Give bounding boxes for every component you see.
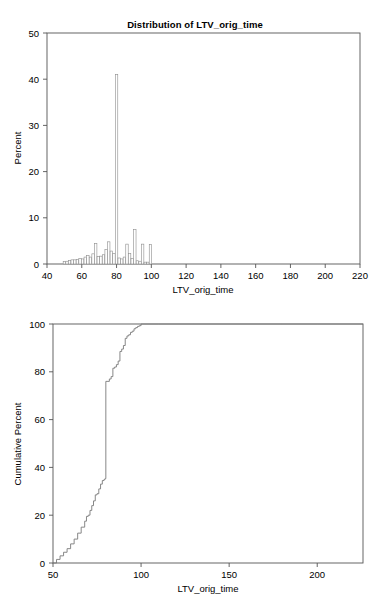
histogram-bar (87, 256, 89, 264)
histogram-bar (128, 253, 130, 264)
histogram-bar (92, 254, 94, 264)
hist-xtick-140: 140 (213, 270, 229, 281)
cdf-ytick-20: 20 (34, 510, 45, 521)
cdf-ytick-40: 40 (34, 462, 45, 473)
cdf-ytick-60: 60 (34, 414, 45, 425)
cdf-x-axis: 50 100 150 200 LTV_orig_time (48, 563, 325, 594)
hist-xtick-220: 220 (352, 270, 368, 281)
histogram-bar (94, 244, 96, 264)
histogram-bar (97, 257, 99, 264)
cdf-xtick-200: 200 (309, 569, 325, 580)
hist-xtick-80: 80 (111, 270, 122, 281)
histogram-bar (100, 256, 102, 264)
hist-ylabel: Percent (12, 131, 23, 164)
histogram-panel: Distribution of LTV_orig_time 0 10 20 30… (0, 0, 390, 300)
histogram-bar (68, 260, 70, 264)
hist-ytick-30: 30 (28, 120, 39, 131)
histogram-bar (66, 261, 68, 264)
histogram-bar (71, 260, 73, 264)
histogram-bar (105, 250, 107, 264)
cdf-curve (53, 324, 363, 563)
histogram-frame (47, 33, 360, 264)
cdf-plot: 0 20 40 60 80 100 Cumulative Percent 50 … (0, 300, 390, 597)
cdf-xtick-50: 50 (48, 569, 59, 580)
hist-xtick-160: 160 (248, 270, 264, 281)
cdf-ytick-0: 0 (40, 558, 45, 569)
cdf-ytick-80: 80 (34, 366, 45, 377)
hist-xtick-180: 180 (283, 270, 299, 281)
histogram-y-axis: 0 10 20 30 40 50 Percent (12, 28, 47, 270)
histogram-bar (121, 259, 123, 264)
hist-xtick-200: 200 (317, 270, 333, 281)
histogram-bar (131, 258, 133, 264)
histogram-bar (102, 255, 104, 264)
histogram-bar (136, 261, 138, 264)
cdf-xlabel: LTV_orig_time (177, 583, 238, 594)
histogram-bar (126, 244, 128, 264)
cdf-xtick-150: 150 (221, 569, 237, 580)
cdf-ytick-100: 100 (29, 319, 45, 330)
hist-xlabel: LTV_orig_time (172, 284, 233, 295)
hist-xtick-40: 40 (42, 270, 53, 281)
histogram-bar (139, 261, 141, 264)
histogram-bar (141, 244, 143, 264)
histogram-plot: 0 10 20 30 40 50 Percent 40 (0, 0, 390, 300)
hist-ytick-10: 10 (28, 212, 39, 223)
histogram-bar (113, 253, 115, 264)
hist-ytick-0: 0 (34, 259, 39, 270)
histogram-bar (144, 262, 146, 264)
cdf-ylabel: Cumulative Percent (12, 402, 23, 485)
histogram-bar (134, 229, 136, 264)
figure-page: Distribution of LTV_orig_time 0 10 20 30… (0, 0, 390, 597)
histogram-bar (147, 262, 149, 264)
histogram-bar (84, 257, 86, 264)
histogram-bar (149, 245, 151, 264)
hist-ytick-50: 50 (28, 28, 39, 39)
histogram-bar (79, 258, 81, 264)
cdf-frame (53, 324, 363, 563)
histogram-bar (74, 260, 76, 264)
hist-xtick-100: 100 (143, 270, 159, 281)
histogram-x-axis: 40 60 80 100 120 140 160 180 200 220 LTV… (42, 264, 368, 295)
histogram-bar (108, 242, 110, 264)
histogram-bar (81, 259, 83, 264)
histogram-bar (115, 75, 117, 264)
cdf-y-axis: 0 20 40 60 80 100 Cumulative Percent (12, 319, 53, 569)
hist-xtick-120: 120 (178, 270, 194, 281)
histogram-bar (63, 262, 65, 264)
cdf-xtick-100: 100 (133, 569, 149, 580)
histogram-bar (110, 251, 112, 264)
hist-xtick-60: 60 (76, 270, 87, 281)
histogram-bar (76, 259, 78, 264)
histogram-bar (118, 258, 120, 264)
histogram-bar (89, 257, 91, 264)
cdf-panel: Cumulative Distribution Function for LTV… (0, 300, 390, 597)
hist-ytick-40: 40 (28, 74, 39, 85)
histogram-bar (123, 257, 125, 264)
histogram-bars (63, 75, 152, 264)
hist-ytick-20: 20 (28, 166, 39, 177)
